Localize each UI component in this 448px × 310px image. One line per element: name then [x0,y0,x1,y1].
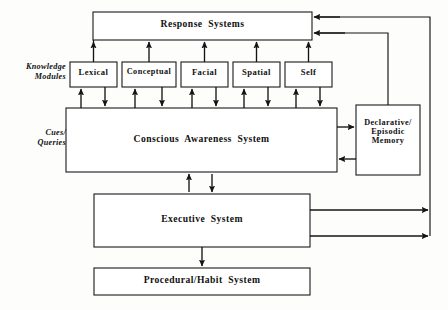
diagram-canvas: Response Systems Lexical Conceptual Faci… [0,0,448,310]
box-procedural-habit-system [94,268,310,295]
box-self [285,62,332,87]
box-lexical [70,62,117,87]
box-conscious-awareness-system [66,108,337,172]
box-spatial [233,62,280,87]
box-conceptual [122,62,176,87]
diagram-vector-layer [0,0,448,310]
box-facial [181,62,228,87]
box-response-systems [93,12,312,40]
box-declarative-episodic-memory [356,105,420,175]
box-executive-system [94,194,310,247]
